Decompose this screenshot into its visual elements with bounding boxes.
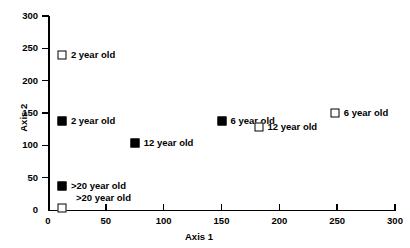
data-point-marker bbox=[57, 182, 66, 191]
x-tick-label-100: 100 bbox=[156, 216, 172, 226]
y-tick-250 bbox=[42, 48, 49, 50]
y-tick-label-50: 50 bbox=[6, 173, 38, 183]
x-tick-label-50: 50 bbox=[101, 216, 112, 226]
x-tick-150 bbox=[221, 204, 223, 211]
data-point-marker bbox=[57, 117, 66, 126]
y-tick-label-300: 300 bbox=[6, 11, 38, 21]
data-point-label: 6 year old bbox=[344, 108, 388, 118]
data-point-label: >20 year old bbox=[76, 193, 131, 203]
data-point-label: 12 year old bbox=[268, 122, 318, 132]
x-tick-label-300: 300 bbox=[387, 216, 403, 226]
data-point-marker bbox=[57, 50, 66, 59]
data-point-label: 2 year old bbox=[71, 50, 115, 60]
y-tick-300 bbox=[42, 15, 49, 17]
data-point-marker bbox=[330, 109, 339, 118]
y-tick-50 bbox=[42, 177, 49, 179]
y-tick-150 bbox=[42, 112, 49, 114]
x-axis-title: Axis 1 bbox=[185, 232, 213, 242]
y-tick-label-200: 200 bbox=[6, 76, 38, 86]
x-tick-label-150: 150 bbox=[214, 216, 230, 226]
x-tick-250 bbox=[336, 204, 338, 211]
y-axis-title: Axis 2 bbox=[19, 88, 29, 148]
data-point-label: >20 year old bbox=[71, 181, 126, 191]
y-tick-label-250: 250 bbox=[6, 44, 38, 54]
x-tick-label-0: 0 bbox=[45, 216, 50, 226]
y-tick-200 bbox=[42, 80, 49, 82]
x-tick-200 bbox=[279, 204, 281, 211]
scatter-plot: 050100150200250300 050100150200250300 2 … bbox=[0, 0, 410, 248]
data-point-marker bbox=[254, 123, 263, 132]
x-tick-300 bbox=[394, 204, 396, 211]
data-point-label: 2 year old bbox=[71, 117, 115, 127]
x-tick-label-200: 200 bbox=[271, 216, 287, 226]
x-tick-label-250: 250 bbox=[329, 216, 345, 226]
data-point-marker bbox=[57, 204, 66, 213]
data-point-marker bbox=[130, 139, 139, 148]
data-point-marker bbox=[217, 116, 226, 125]
y-tick-label-0: 0 bbox=[6, 205, 38, 215]
x-tick-100 bbox=[163, 204, 165, 211]
x-tick-50 bbox=[105, 204, 107, 211]
data-point-label: 12 year old bbox=[144, 139, 194, 149]
y-tick-100 bbox=[42, 145, 49, 147]
